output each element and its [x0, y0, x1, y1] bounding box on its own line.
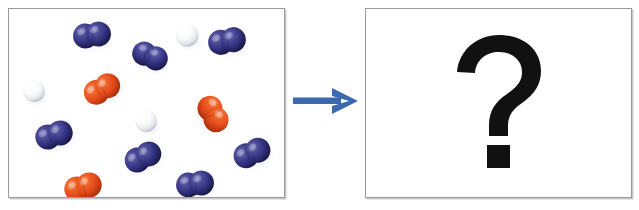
arrow-right-icon — [293, 88, 358, 114]
blue-diatomic-5 — [120, 134, 174, 183]
atom-highlight — [139, 45, 147, 51]
atom-sphere — [23, 80, 45, 102]
reaction-figure — [0, 0, 639, 210]
orange-diatomic-3 — [61, 167, 113, 197]
reactant-mixture-panel — [8, 8, 285, 198]
white-atom-1 — [174, 24, 205, 54]
orange-diatomic-2 — [186, 91, 235, 145]
blue-diatomic-7 — [174, 168, 222, 197]
white-atom-2 — [22, 80, 52, 109]
reaction-arrow — [292, 82, 360, 120]
blue-diatomic-4 — [32, 115, 84, 160]
blue-diatomic-6 — [229, 131, 283, 179]
product-unknown-panel — [365, 8, 632, 198]
blue-diatomic-3 — [206, 24, 256, 65]
blue-diatomic-1 — [71, 19, 119, 57]
orange-diatomic-1 — [79, 66, 133, 116]
atom-sphere — [135, 110, 157, 132]
atom-sphere — [176, 24, 199, 47]
blue-diatomic-2 — [126, 38, 177, 83]
white-atom-3 — [134, 110, 164, 139]
molecule-layer — [9, 9, 284, 197]
question-mark-icon — [366, 9, 631, 197]
